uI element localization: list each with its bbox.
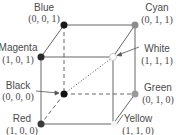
label-black-coord: (0, 0, 0): [2, 91, 34, 103]
vertex-yellow: [111, 121, 117, 127]
label-yellow-name: Yellow: [124, 113, 153, 124]
label-yellow-coord: (1, 1, 0): [122, 125, 154, 135]
cube-edges-solid: [41, 25, 135, 124]
grayscale-diagonal: [64, 57, 113, 94]
label-black-name: Black: [6, 80, 31, 91]
label-magenta-name: Magenta: [0, 42, 38, 53]
vertex-red: [38, 121, 45, 128]
label-cyan-coord: (0, 1, 1): [141, 14, 173, 26]
vertex-white: [110, 54, 117, 61]
label-cyan-name: Cyan: [145, 2, 168, 13]
vertex-green: [132, 91, 139, 98]
label-white-coord: (1, 1, 1): [141, 55, 173, 67]
vertex-black: [61, 91, 68, 98]
label-red-name: Red: [13, 113, 31, 124]
edge-cyan-white: [113, 25, 135, 57]
cube-edges-hidden: [41, 25, 135, 124]
vertex-blue: [61, 22, 68, 29]
yellow-pointer: [116, 115, 123, 125]
label-magenta-coord: (1, 0, 1): [2, 54, 34, 66]
edge-black-red: [41, 94, 64, 124]
vertex-cyan: [132, 22, 139, 29]
edge-blue-magenta: [41, 25, 64, 57]
label-red-coord: (1, 0, 0): [6, 125, 38, 135]
white-pointer-arrowhead: [117, 53, 122, 57]
vertex-magenta: [38, 54, 45, 61]
label-white-name: White: [144, 43, 170, 54]
label-blue-coord: (0, 0, 1): [28, 13, 60, 25]
label-blue-name: Blue: [34, 2, 54, 13]
label-green-name: Green: [144, 82, 172, 93]
rgb-cube-diagram: Blue (0, 0, 1) Cyan (0, 1, 1) Magenta (1…: [0, 0, 176, 135]
black-pointer-arrowhead: [55, 91, 59, 95]
label-green-coord: (0, 1, 0): [142, 94, 174, 106]
